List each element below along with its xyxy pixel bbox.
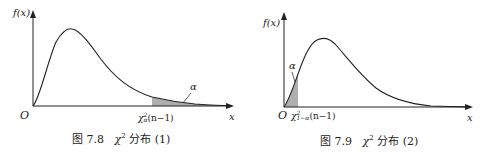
figure-chi-square-left-tail: f(x) O x α χ21−α(n−1) 图 7.9 χ2 分布 (2)	[241, 0, 482, 157]
y-axis-arrow-icon	[30, 10, 36, 18]
origin-label: O	[20, 110, 29, 121]
x-axis-label: x	[467, 113, 473, 123]
figure-caption: 图 7.8 χ2 分布 (1)	[72, 133, 170, 145]
x-axis-arrow-icon	[226, 103, 234, 109]
alpha-leader-line	[183, 93, 191, 103]
quantile-label: χ2α(n−1)	[138, 113, 174, 123]
quantile-label: χ21−α(n−1)	[291, 111, 335, 121]
density-curve	[284, 38, 469, 107]
figure-caption: 图 7.9 χ2 分布 (2)	[320, 135, 418, 147]
y-axis-label: f(x)	[13, 8, 30, 18]
density-curve	[33, 29, 232, 106]
y-axis-arrow-icon	[281, 12, 287, 20]
alpha-label: α	[190, 82, 197, 92]
x-axis-label: x	[229, 112, 235, 122]
x-axis-arrow-icon	[465, 104, 473, 110]
shaded-tail-area	[150, 90, 235, 107]
alpha-leader-line	[292, 72, 295, 82]
origin-label: O	[278, 110, 287, 121]
y-axis-label: f(x)	[263, 18, 280, 28]
figure-chi-square-right-tail: f(x) O x α χ2α(n−1) 图 7.8 χ2 分布 (1)	[0, 0, 241, 157]
alpha-label: α	[289, 61, 296, 71]
